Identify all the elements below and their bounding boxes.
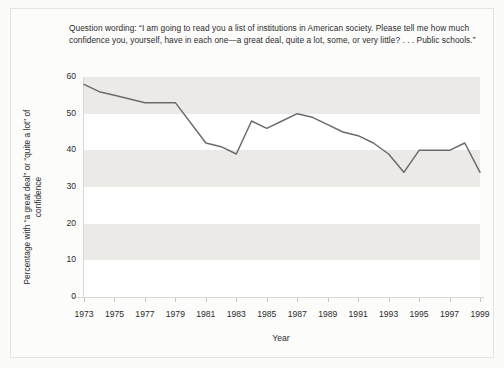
x-axis-tick-mark: [389, 298, 390, 302]
x-axis-tick-mark: [297, 298, 298, 302]
x-axis-tick-mark: [450, 298, 451, 302]
x-axis-tick-mark: [84, 298, 85, 302]
x-axis-tick-mark: [358, 298, 359, 302]
series-line-public-schools: [84, 84, 480, 172]
y-axis-tick-label: 50: [46, 108, 76, 118]
x-axis-tick-mark: [206, 298, 207, 302]
chart-plot-wrapper: Percentage with “a great deal” or “quite…: [0, 0, 504, 368]
y-axis-tick-label: 20: [46, 218, 76, 228]
x-axis-tick-mark: [328, 298, 329, 302]
x-axis-tick-mark: [236, 298, 237, 302]
x-axis-tick-mark: [145, 298, 146, 302]
x-axis-tick-mark: [480, 298, 481, 302]
y-axis-tick-label: 30: [46, 181, 76, 191]
x-axis-tick-mark: [267, 298, 268, 302]
x-axis-tick-mark: [175, 298, 176, 302]
x-axis-tick-mark: [114, 298, 115, 302]
x-axis-tick-mark: [419, 298, 420, 302]
figure-container: Question wording: “I am going to read yo…: [0, 0, 504, 368]
y-axis-tick-label: 60: [46, 71, 76, 81]
x-axis-tick-label: 1999: [460, 309, 500, 319]
y-axis-tick-label: 10: [46, 254, 76, 264]
y-axis-tick-label: 0: [46, 291, 76, 301]
y-axis-tick-label: 40: [46, 144, 76, 154]
